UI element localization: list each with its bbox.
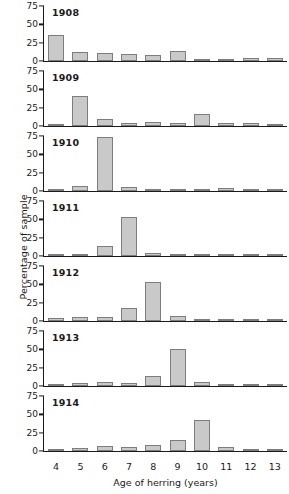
bar	[218, 447, 234, 451]
bar	[243, 254, 259, 256]
bar	[145, 282, 161, 321]
bar	[72, 317, 88, 321]
bar	[97, 446, 113, 451]
herring-age-histogram-figure: Percentage of sample 0255075190802550751…	[0, 0, 289, 494]
bar	[72, 383, 88, 386]
y-tick-label-group: 0255075	[18, 6, 40, 61]
bar	[170, 440, 186, 451]
y-tick-label: 75	[27, 132, 38, 141]
y-tick-label-group: 0255075	[18, 331, 40, 386]
y-tick-label-group: 0255075	[18, 266, 40, 321]
bar	[97, 119, 113, 126]
bar	[267, 319, 283, 321]
bar	[48, 384, 64, 386]
x-axis: 45678910111213 Age of herring (years)	[18, 461, 289, 494]
bar	[145, 445, 161, 451]
bar	[72, 96, 88, 126]
bar	[194, 254, 210, 256]
panel-1912: 02550751912	[18, 266, 289, 331]
bar	[243, 449, 259, 451]
bar	[170, 123, 186, 126]
panel-1914: 02550751914	[18, 396, 289, 461]
y-tick-label: 0	[32, 382, 38, 391]
y-tick-label-group: 0255075	[18, 71, 40, 126]
y-tick-label: 75	[27, 392, 38, 401]
bar	[170, 254, 186, 256]
y-tick-label: 25	[27, 298, 38, 307]
bar	[145, 189, 161, 191]
bar	[194, 420, 210, 451]
bar	[218, 59, 234, 61]
bar	[218, 123, 234, 126]
bar	[267, 58, 283, 61]
x-axis-baseline	[43, 61, 287, 62]
y-tick-label: 75	[27, 2, 38, 11]
plot-area	[44, 136, 287, 191]
bar	[170, 51, 186, 61]
y-tick-label: 50	[27, 280, 38, 289]
plot-area	[44, 71, 287, 126]
bar	[97, 246, 113, 256]
bar	[97, 53, 113, 61]
x-tick-label-row: 45678910111213	[44, 461, 287, 475]
y-tick-label: 50	[27, 215, 38, 224]
x-axis-baseline	[43, 191, 287, 192]
plot-area	[44, 266, 287, 321]
x-tick-label: 10	[196, 461, 208, 472]
bar	[121, 383, 137, 386]
y-tick-label: 25	[27, 168, 38, 177]
x-axis-baseline	[43, 451, 287, 452]
x-axis-baseline	[43, 256, 287, 257]
y-tick-label: 25	[27, 103, 38, 112]
x-tick-label: 5	[77, 461, 83, 472]
plot-area	[44, 396, 287, 451]
bar	[243, 189, 259, 191]
y-tick-label: 0	[32, 187, 38, 196]
bar	[267, 254, 283, 256]
bar	[72, 52, 88, 61]
x-axis-baseline	[43, 321, 287, 322]
bar	[97, 382, 113, 386]
y-tick-label: 75	[27, 327, 38, 336]
y-tick-label: 50	[27, 345, 38, 354]
panel-1908: 02550751908	[18, 6, 289, 71]
y-tick-label: 50	[27, 410, 38, 419]
bar	[48, 318, 64, 321]
bar	[121, 217, 137, 256]
bar	[267, 449, 283, 451]
plot-area	[44, 6, 287, 61]
bar	[194, 382, 210, 386]
bar	[218, 254, 234, 256]
bar	[121, 54, 137, 61]
plot-area	[44, 201, 287, 256]
bar	[243, 58, 259, 61]
bar	[72, 448, 88, 451]
bar	[218, 384, 234, 386]
panel-1909: 02550751909	[18, 71, 289, 136]
bar	[267, 189, 283, 191]
y-tick-label-group: 0255075	[18, 201, 40, 256]
bar	[145, 376, 161, 386]
y-tick-label: 25	[27, 363, 38, 372]
bar	[121, 447, 137, 451]
bar	[145, 122, 161, 126]
x-tick-label: 7	[126, 461, 132, 472]
bar	[48, 254, 64, 256]
bar	[243, 319, 259, 321]
bar	[194, 114, 210, 126]
y-tick-label: 25	[27, 38, 38, 47]
panel-stack: 0255075190802550751909025507519100255075…	[18, 6, 289, 461]
bar	[170, 349, 186, 386]
bar	[121, 187, 137, 191]
y-tick-label-group: 0255075	[18, 396, 40, 451]
x-axis-title: Age of herring (years)	[44, 477, 287, 488]
y-tick-label: 75	[27, 197, 38, 206]
bar	[194, 189, 210, 191]
x-tick-label: 12	[245, 461, 257, 472]
bar	[48, 449, 64, 451]
x-tick-label: 4	[53, 461, 59, 472]
bar	[218, 319, 234, 321]
bar	[170, 316, 186, 321]
bar	[121, 308, 137, 321]
bar	[243, 384, 259, 386]
